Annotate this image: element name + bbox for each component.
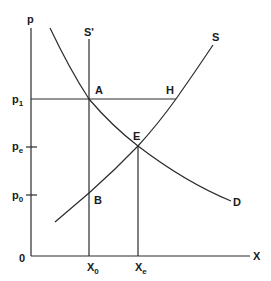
p0-label: p0	[12, 189, 24, 204]
demand-curve	[50, 28, 231, 201]
point-a-label: A	[95, 84, 103, 96]
x0-label: X0	[87, 261, 99, 276]
point-b-label: B	[94, 194, 102, 206]
y-axis-label: p	[27, 13, 34, 25]
xe-label: Xe	[135, 261, 147, 276]
point-e-label: E	[133, 130, 140, 142]
s-label: S	[212, 31, 219, 43]
origin-label: 0	[19, 252, 25, 264]
pe-label: pe	[12, 140, 24, 155]
point-h-label: H	[166, 84, 174, 96]
supply-demand-diagram: p X 0 p1 pe p0 X0 Xe S' S D A H E B	[0, 0, 271, 281]
p1-label: p1	[12, 93, 24, 108]
d-label: D	[233, 196, 241, 208]
x-axis-label: X	[253, 250, 261, 262]
s-prime-label: S'	[84, 26, 94, 38]
